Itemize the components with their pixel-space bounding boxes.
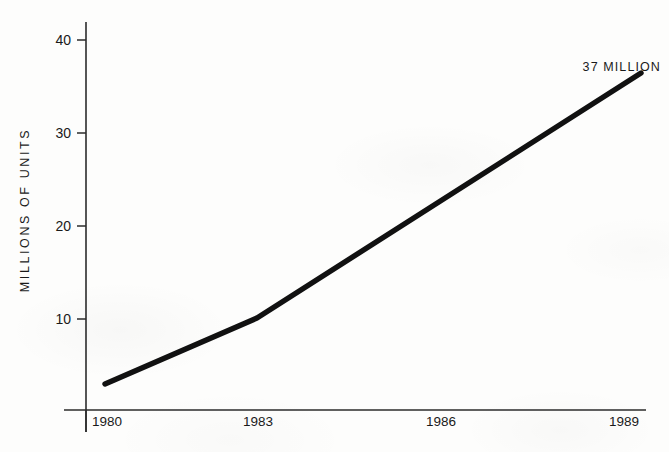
line-chart-plot: 40 30 20 10 MILLIONS OF UNITS 1980 1983 … (0, 0, 669, 452)
x-tick-label-1983: 1983 (243, 414, 273, 429)
y-tick-label-20: 20 (55, 218, 71, 234)
y-tick-label-30: 30 (55, 125, 71, 141)
y-tick-label-10: 10 (55, 311, 71, 327)
axis-lines (64, 22, 646, 432)
y-tick-labels: 40 30 20 10 (55, 32, 71, 327)
y-tick-label-40: 40 (55, 32, 71, 48)
y-tick-marks (77, 40, 86, 319)
data-line-series-units (105, 73, 641, 384)
x-tick-label-1980: 1980 (92, 414, 122, 429)
x-tick-label-1986: 1986 (426, 414, 456, 429)
chart-container: 40 30 20 10 MILLIONS OF UNITS 1980 1983 … (0, 0, 669, 452)
x-tick-labels: 1980 1983 1986 1989 (92, 414, 639, 429)
y-axis-title: MILLIONS OF UNITS (18, 128, 32, 292)
x-tick-label-1989: 1989 (609, 414, 639, 429)
annotation-37-million: 37 MILLION (583, 60, 661, 74)
